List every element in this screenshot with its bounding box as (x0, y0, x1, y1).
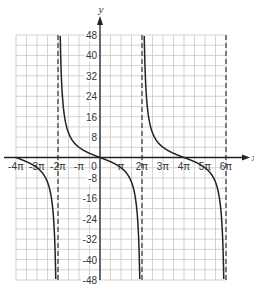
y-tick-label: 16 (86, 112, 98, 123)
x-axis-arrow-icon (242, 155, 250, 161)
x-tick-label: -2π (50, 161, 66, 172)
y-axis-arrow-icon (97, 16, 103, 25)
y-tick-label: 24 (86, 91, 98, 102)
x-tick-label: 5π (199, 161, 212, 172)
x-tick-label: 2π (136, 161, 149, 172)
y-tick-label: 48 (86, 30, 98, 41)
x-tick-labels: -4π-3π-2π-π0π2π3π4π5π6π (8, 161, 232, 172)
tangent-graph: -4π-3π-2π-π0π2π3π4π5π6π 48403224168-8-16… (0, 0, 254, 290)
x-tick-label: 3π (157, 161, 170, 172)
y-tick-label: -24 (83, 214, 98, 225)
x-tick-label: -4π (8, 161, 24, 172)
y-tick-label: -40 (83, 255, 98, 266)
y-tick-label: 40 (86, 50, 98, 61)
x-tick-label: π (118, 161, 125, 172)
y-tick-label: -16 (83, 193, 98, 204)
y-tick-label: 32 (86, 71, 98, 82)
x-tick-label: 4π (178, 161, 191, 172)
x-tick-label: -π (74, 161, 84, 172)
x-tick-label: -3π (29, 161, 45, 172)
x-axis-label: x (251, 151, 254, 163)
y-tick-label: 8 (91, 132, 97, 143)
y-axis-label: y (98, 3, 104, 15)
x-tick-label: 6π (220, 161, 233, 172)
y-tick-label: -8 (88, 173, 97, 184)
y-tick-label: -32 (83, 234, 98, 245)
y-tick-label: -48 (83, 275, 98, 286)
x-tick-label: 0 (91, 161, 97, 172)
curve-branch (16, 158, 56, 280)
